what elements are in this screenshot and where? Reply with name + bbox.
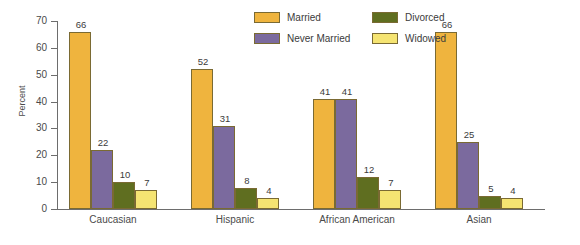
bar[interactable]: 41 xyxy=(335,99,357,209)
bar[interactable]: 5 xyxy=(479,196,501,209)
y-axis-tick-label: 50 xyxy=(20,70,47,80)
bar-value-label: 4 xyxy=(254,186,284,196)
bar-group: 6622107 xyxy=(69,21,157,209)
x-axis-category-label: Asian xyxy=(405,214,553,225)
legend-color-swatch xyxy=(254,12,280,23)
legend-label: Widowed xyxy=(405,34,446,44)
bar[interactable]: 41 xyxy=(313,99,335,209)
legend-color-swatch xyxy=(372,12,398,23)
bar-value-label: 4 xyxy=(498,186,528,196)
bar-value-label: 22 xyxy=(88,138,118,148)
legend-item[interactable]: Never Married xyxy=(254,33,350,44)
bar[interactable]: 25 xyxy=(457,142,479,209)
bar-value-label: 7 xyxy=(132,178,162,188)
bar-value-label: 8 xyxy=(232,176,262,186)
bar[interactable]: 52 xyxy=(191,69,213,209)
bar-value-label: 41 xyxy=(332,87,362,97)
bar[interactable]: 7 xyxy=(379,190,401,209)
y-axis-tick-label: 60 xyxy=(20,43,47,53)
bar-value-label: 7 xyxy=(376,178,406,188)
y-axis-tick-label: 70 xyxy=(20,16,47,26)
bar-chart: Percent 010203040506070 6622107523184414… xyxy=(0,0,580,245)
x-axis-line xyxy=(57,209,545,210)
y-axis-tick xyxy=(51,209,58,210)
chart-legend: MarriedNever MarriedDivorcedWidowed xyxy=(254,12,464,52)
bar[interactable]: 4 xyxy=(501,198,523,209)
bar[interactable]: 31 xyxy=(213,126,235,209)
bar-value-label: 31 xyxy=(210,114,240,124)
bar-value-label: 12 xyxy=(354,165,384,175)
bar[interactable]: 4 xyxy=(257,198,279,209)
legend-color-swatch xyxy=(372,33,398,44)
legend-label: Divorced xyxy=(405,13,444,23)
bar[interactable]: 7 xyxy=(135,190,157,209)
bar-value-label: 52 xyxy=(188,57,218,67)
legend-label: Married xyxy=(287,13,321,23)
legend-label: Never Married xyxy=(287,34,350,44)
legend-color-swatch xyxy=(254,33,280,44)
legend-item[interactable]: Married xyxy=(254,12,321,23)
bar[interactable]: 66 xyxy=(69,32,91,209)
legend-item[interactable]: Divorced xyxy=(372,12,444,23)
y-axis-tick-label: 20 xyxy=(20,150,47,160)
legend-item[interactable]: Widowed xyxy=(372,33,446,44)
bar-value-label: 66 xyxy=(66,20,96,30)
bar-value-label: 25 xyxy=(454,130,484,140)
y-axis-tick-label: 30 xyxy=(20,123,47,133)
y-axis-tick-label: 0 xyxy=(20,204,47,214)
bar[interactable]: 66 xyxy=(435,32,457,209)
y-axis-tick-label: 40 xyxy=(20,97,47,107)
y-axis-tick-label: 10 xyxy=(20,177,47,187)
